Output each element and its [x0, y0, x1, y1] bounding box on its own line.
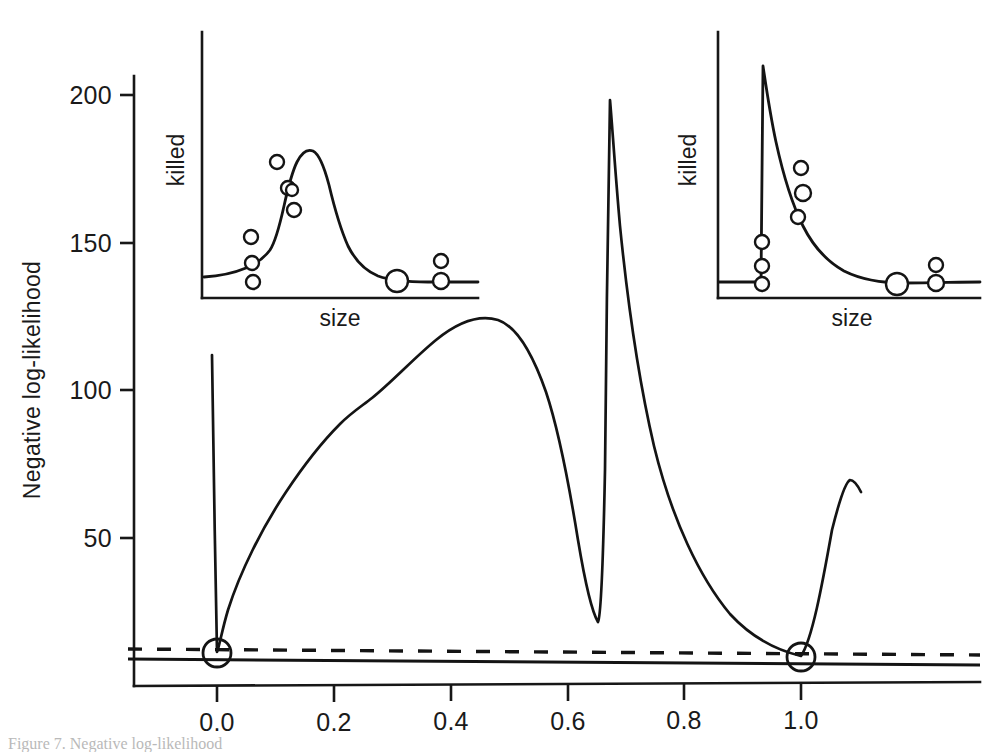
x-axis-ticks — [217, 684, 801, 702]
x-axis-line — [134, 682, 980, 686]
y-axis-title: Negative log-likelihood — [19, 261, 45, 499]
y-tick-label-200: 200 — [69, 81, 112, 109]
x-tick-label-0: 0.0 — [199, 708, 235, 736]
inset-right-chart: killed size — [660, 10, 990, 330]
x-tick-label-3: 0.6 — [550, 707, 586, 735]
inset-left-y-label: killed — [163, 134, 189, 186]
x-tick-label-1: 0.2 — [316, 708, 352, 736]
inset-right-x-label: size — [832, 305, 873, 330]
figure-caption-fragment: Figure 7. Negative log-likelihood — [8, 735, 428, 752]
inset-left-panel: killed size — [160, 10, 490, 330]
y-axis-ticks — [120, 95, 134, 538]
x-tick-label-4: 0.8 — [666, 706, 702, 734]
inset-right-panel: killed size — [660, 10, 990, 330]
reference-line-solid — [128, 659, 980, 665]
inset-right-y-label: killed — [675, 134, 701, 186]
y-tick-label-150: 150 — [69, 229, 112, 257]
y-tick-label-50: 50 — [84, 524, 112, 552]
inset-left-x-label: size — [320, 305, 361, 330]
x-tick-label-5: 1.0 — [783, 706, 819, 734]
inset-left-chart: killed size — [160, 10, 490, 330]
inset-right-fitted-curve — [719, 66, 980, 283]
reference-line-dashed — [128, 649, 980, 655]
x-tick-label-2: 0.4 — [433, 707, 469, 735]
y-tick-label-100: 100 — [69, 376, 112, 404]
inset-left-data-points — [244, 155, 449, 292]
figure-root: 200 150 100 50 0.0 0.2 0.4 0.6 0.8 1.0 N… — [0, 0, 994, 752]
